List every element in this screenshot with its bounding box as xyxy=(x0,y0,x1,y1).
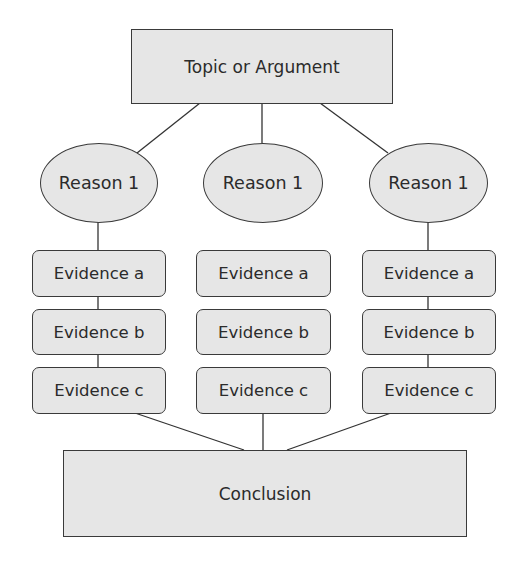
evidence-label: Evidence b xyxy=(384,323,475,342)
reason-ellipse-2: Reason 1 xyxy=(203,143,323,223)
evidence-label: Evidence a xyxy=(54,264,144,283)
conclusion-label: Conclusion xyxy=(219,484,312,504)
connector-topic-reason-1 xyxy=(137,103,200,153)
evidence-label: Evidence c xyxy=(54,381,143,400)
evidence-label: Evidence b xyxy=(218,323,309,342)
reason-ellipse-1: Reason 1 xyxy=(40,143,158,223)
conclusion-box: Conclusion xyxy=(63,450,467,537)
reason-label: Reason 1 xyxy=(223,173,303,193)
argument-diagram: Topic or Argument Reason 1 Reason 1 Reas… xyxy=(0,0,524,566)
reason-label: Reason 1 xyxy=(388,173,468,193)
evidence-box-1a: Evidence a xyxy=(32,250,166,297)
evidence-box-3a: Evidence a xyxy=(362,250,496,297)
topic-label: Topic or Argument xyxy=(184,57,339,77)
evidence-label: Evidence b xyxy=(54,323,145,342)
connector-topic-reason-3 xyxy=(320,103,388,153)
topic-box: Topic or Argument xyxy=(131,29,393,104)
reason-label: Reason 1 xyxy=(59,173,139,193)
evidence-box-3c: Evidence c xyxy=(362,367,496,414)
evidence-box-2c: Evidence c xyxy=(196,367,331,414)
evidence-box-2b: Evidence b xyxy=(196,309,331,355)
evidence-label: Evidence c xyxy=(384,381,473,400)
connector-evidence-3c-conclusion xyxy=(287,413,391,450)
evidence-box-3b: Evidence b xyxy=(362,309,496,355)
evidence-label: Evidence a xyxy=(218,264,308,283)
evidence-box-1b: Evidence b xyxy=(32,309,166,355)
evidence-label: Evidence a xyxy=(384,264,474,283)
connector-evidence-1c-conclusion xyxy=(135,413,244,450)
evidence-box-2a: Evidence a xyxy=(196,250,331,297)
reason-ellipse-3: Reason 1 xyxy=(369,143,488,223)
evidence-label: Evidence c xyxy=(219,381,308,400)
evidence-box-1c: Evidence c xyxy=(32,367,166,414)
